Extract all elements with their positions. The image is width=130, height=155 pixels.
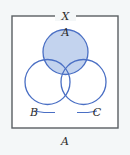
label-set-c: C	[93, 106, 102, 119]
venn-diagram-figure: X A B C A	[0, 0, 130, 155]
venn-diagram-canvas: X A B C A	[0, 0, 130, 155]
universe-label: X	[61, 10, 71, 23]
label-set-b: B	[29, 106, 38, 119]
label-set-a: A	[61, 26, 70, 39]
figure-caption: A	[60, 135, 69, 148]
